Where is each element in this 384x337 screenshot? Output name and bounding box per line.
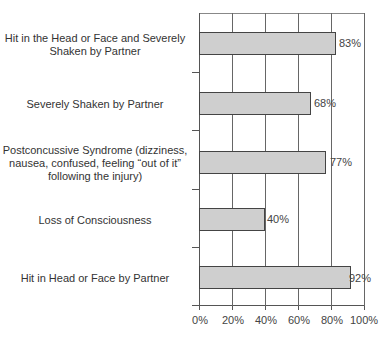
x-tick	[265, 306, 266, 310]
category-label-line: following the injury)	[0, 170, 190, 183]
x-tick-label: 40%	[255, 314, 277, 326]
x-tick-label: 20%	[222, 314, 244, 326]
bar-hit-head-face	[199, 266, 351, 289]
category-label-line: Postconcussive Syndrome (dizziness,	[0, 144, 190, 157]
value-label: 77%	[330, 156, 352, 168]
value-label: 83%	[339, 37, 361, 49]
y-tick	[192, 130, 199, 131]
x-axis-extension	[192, 305, 199, 306]
x-tick-label: 80%	[321, 314, 343, 326]
category-label: Hit in the Head or Face and Severely Sha…	[0, 32, 190, 58]
y-tick	[192, 72, 199, 73]
gridline-100	[364, 13, 365, 306]
category-label: Postconcussive Syndrome (dizziness, naus…	[0, 144, 190, 183]
category-label-line: Severely Shaken by Partner	[0, 98, 190, 111]
x-tick	[364, 306, 365, 310]
category-label: Hit in Head or Face by Partner	[0, 272, 190, 285]
bar-postconcussive	[199, 151, 326, 174]
category-label-line: Hit in Head or Face by Partner	[0, 272, 190, 285]
value-label: 40%	[267, 213, 289, 225]
x-tick	[298, 306, 299, 310]
value-label: 92%	[349, 272, 371, 284]
x-tick-label: 100%	[350, 314, 378, 326]
bar-loss-of-consciousness	[199, 208, 265, 231]
category-label-line: Shaken by Partner	[0, 45, 190, 58]
bar-hit-head-and-shaken	[199, 32, 336, 55]
category-label: Severely Shaken by Partner	[0, 98, 190, 111]
x-tick	[199, 306, 200, 310]
x-tick-label: 0%	[192, 314, 208, 326]
x-tick	[232, 306, 233, 310]
y-tick	[192, 189, 199, 190]
bar-severely-shaken	[199, 92, 311, 115]
category-label-line: Hit in the Head or Face and Severely	[0, 32, 190, 45]
value-label: 68%	[314, 97, 336, 109]
category-label-line: Loss of Consciousness	[0, 214, 190, 227]
category-label: Loss of Consciousness	[0, 214, 190, 227]
y-tick	[192, 247, 199, 248]
x-tick	[331, 306, 332, 310]
x-tick-label: 60%	[288, 314, 310, 326]
category-label-line: nausea, confused, feeling “out of it”	[0, 157, 190, 170]
